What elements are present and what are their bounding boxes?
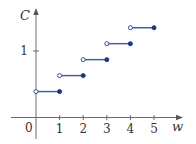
x-tick-label: 2 [79, 122, 87, 136]
ticks [33, 51, 154, 120]
y-tick-label: 1 [20, 44, 28, 58]
tick-labels: 123451 [20, 44, 157, 136]
step-series [34, 26, 156, 94]
closed-endpoint-icon [105, 58, 109, 62]
open-endpoint-icon [105, 42, 109, 46]
step-function-chart: 123451 C w 0 [0, 0, 196, 144]
origin-label: 0 [25, 121, 33, 135]
step-segment [128, 26, 156, 30]
x-tick-label: 5 [150, 122, 158, 136]
x-axis-label: w [172, 119, 183, 134]
open-endpoint-icon [58, 74, 62, 78]
x-tick-label: 3 [103, 122, 111, 136]
y-axis-arrow-icon [33, 8, 38, 15]
x-tick-label: 1 [56, 122, 64, 136]
open-endpoint-icon [81, 58, 85, 62]
closed-endpoint-icon [81, 74, 85, 78]
step-segment [105, 42, 133, 46]
open-endpoint-icon [34, 90, 38, 94]
axes [11, 8, 183, 139]
closed-endpoint-icon [152, 26, 156, 30]
closed-endpoint-icon [128, 42, 132, 46]
step-segment [34, 90, 62, 94]
open-endpoint-icon [128, 26, 132, 30]
step-segment [58, 74, 86, 78]
x-tick-label: 4 [127, 122, 135, 136]
step-segment [81, 58, 109, 62]
closed-endpoint-icon [58, 90, 62, 94]
y-axis-label: C [20, 8, 30, 23]
